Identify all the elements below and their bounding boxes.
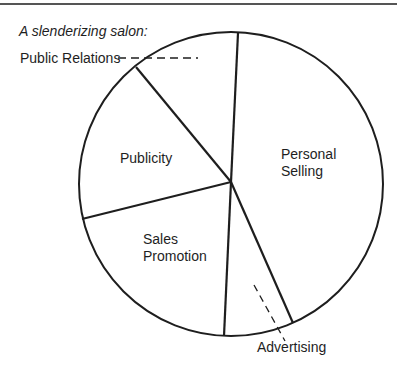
label-sales-promotion: Sales Promotion (143, 231, 207, 265)
label-personal-line2: Selling (281, 163, 336, 180)
label-personal-selling: Personal Selling (281, 146, 336, 180)
label-publicity: Publicity (120, 150, 172, 167)
label-public-relations: Public Relations (20, 50, 120, 67)
label-sales-line2: Promotion (143, 248, 207, 265)
label-sales-line1: Sales (143, 231, 207, 248)
label-advertising: Advertising (257, 339, 326, 356)
label-personal-line1: Personal (281, 146, 336, 163)
